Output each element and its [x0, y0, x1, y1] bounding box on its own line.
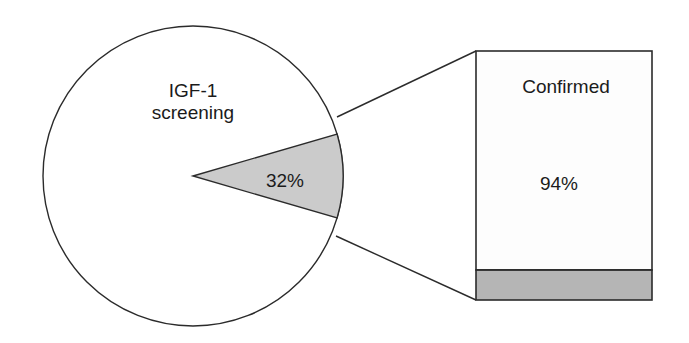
pie-to-bar-callout-figure: IGF-1 screening 32% Confirmed 94% [0, 0, 689, 343]
bar-top-label: Confirmed [522, 76, 610, 97]
pie-label-line1: IGF-1 [169, 80, 218, 101]
bar-value-label: 94% [540, 173, 578, 194]
pie-slice-value-label: 32% [266, 170, 304, 191]
callout-connector-top [337, 51, 476, 117]
pie-label-line2: screening [152, 102, 234, 123]
figure-container: IGF-1 screening 32% Confirmed 94% [0, 0, 689, 343]
bar-segment-not-confirmed[interactable] [476, 270, 652, 300]
callout-connector-bottom [336, 236, 476, 300]
